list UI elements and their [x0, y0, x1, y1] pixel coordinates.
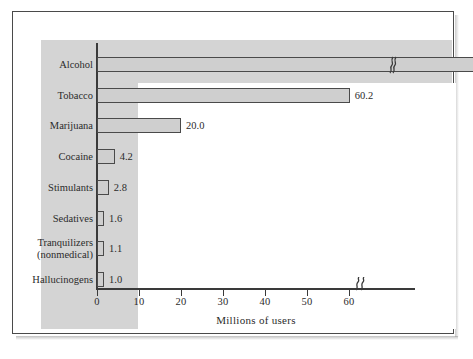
x-axis-tick-label: 30 [203, 296, 243, 307]
x-axis-tick-label: 50 [287, 296, 327, 307]
category-label: Tobacco [0, 90, 93, 102]
bar-break-icon [387, 56, 398, 78]
x-axis-tick-label: 40 [245, 296, 285, 307]
bar-value-label: 2.8 [114, 182, 127, 193]
category-label: Tranquilizers (nonmedical) [0, 237, 93, 260]
category-label: Stimulants [0, 182, 93, 194]
bar [97, 149, 115, 164]
figure-root: 0102030405060100110 100.260.220.04.22.81… [0, 0, 473, 359]
bar-value-label: 60.2 [355, 90, 373, 101]
category-label: Hallucinogens [0, 274, 93, 286]
bar [97, 118, 181, 133]
bar [97, 211, 104, 226]
x-axis-tick-label: 10 [119, 296, 159, 307]
x-axis-tick-label: 0 [77, 296, 117, 307]
bar [97, 241, 104, 256]
x-axis-title: Millions of users [97, 314, 415, 326]
bar-value-label: 1.0 [109, 274, 122, 285]
bar [97, 180, 109, 195]
category-label: Sedatives [0, 213, 93, 225]
bar-value-label: 4.2 [120, 151, 133, 162]
category-label: Marijuana [0, 120, 93, 132]
bar [97, 88, 350, 103]
bar-value-label: 1.6 [109, 213, 122, 224]
category-label: Alcohol [0, 59, 93, 71]
x-axis-break-icon [352, 277, 368, 291]
x-axis-tick-label: 60 [329, 296, 369, 307]
category-label: Cocaine [0, 151, 93, 163]
bar-value-label: 20.0 [186, 120, 204, 131]
x-axis-tick-label: 20 [161, 296, 201, 307]
bar [97, 57, 473, 72]
bar-value-label: 1.1 [109, 243, 122, 254]
bar [97, 272, 104, 287]
frame-shadow [16, 336, 458, 340]
